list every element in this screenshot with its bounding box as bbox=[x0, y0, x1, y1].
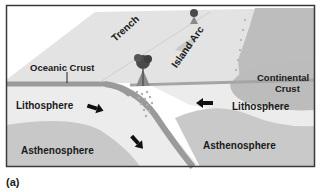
continental-crust-label-line2: Crust bbox=[275, 84, 300, 94]
subduction-diagram: Trench Island Arc Oceanic Crust Continen… bbox=[0, 0, 323, 192]
asthenosphere-right-label: Asthenosphere bbox=[203, 141, 276, 151]
diagram-graphic bbox=[0, 0, 323, 192]
lithosphere-right-label: Lithosphere bbox=[232, 102, 289, 112]
continental-crust-label-line1: Continental bbox=[257, 73, 309, 83]
oceanic-crust-label: Oceanic Crust bbox=[30, 63, 94, 73]
asthenosphere-left-label: Asthenosphere bbox=[21, 146, 94, 156]
lithosphere-left-label: Lithosphere bbox=[16, 101, 73, 111]
figure-caption: (a) bbox=[6, 176, 19, 188]
